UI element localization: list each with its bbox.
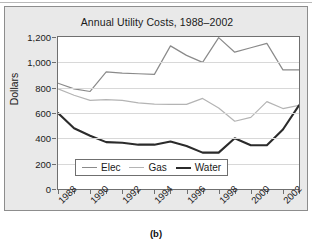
y-axis-tick-mark xyxy=(52,164,56,165)
legend-label: Elec xyxy=(101,162,120,173)
gridline xyxy=(58,88,299,89)
y-axis-tick-mark xyxy=(52,88,56,89)
y-axis-tick-marks xyxy=(5,36,57,190)
page-rule-divider xyxy=(0,2,312,3)
legend-item-water: Water xyxy=(176,162,221,173)
legend-label: Water xyxy=(195,162,221,173)
legend-label: Gas xyxy=(148,162,166,173)
gridline xyxy=(58,113,299,114)
y-axis-tick-mark xyxy=(52,138,56,139)
x-axis-tick-labels: 19881990199219941996199820002002 xyxy=(57,195,300,225)
figure-caption: (b) xyxy=(0,228,312,239)
x-axis-tick-mark xyxy=(219,190,220,194)
y-axis-tick-mark xyxy=(52,189,56,190)
x-axis-tick-mark xyxy=(187,190,188,194)
series-line-gas xyxy=(58,89,299,121)
legend-swatch-gas xyxy=(129,167,144,168)
chart-title: Annual Utility Costs, 1988–2002 xyxy=(5,16,309,28)
y-axis-tick-mark xyxy=(52,37,56,38)
chart-legend: ElecGasWater xyxy=(75,159,228,176)
chart-plate: Annual Utility Costs, 1988–2002 Dollars … xyxy=(4,6,308,211)
gridline xyxy=(58,62,299,63)
legend-swatch-elec xyxy=(82,167,97,168)
figure-container: Annual Utility Costs, 1988–2002 Dollars … xyxy=(0,0,312,249)
y-axis-tick-mark xyxy=(52,62,56,63)
legend-item-elec: Elec xyxy=(82,162,120,173)
legend-swatch-water xyxy=(176,167,191,169)
y-axis-tick-mark xyxy=(52,113,56,114)
gridline xyxy=(58,138,299,139)
series-line-elec xyxy=(58,38,299,92)
legend-item-gas: Gas xyxy=(129,162,166,173)
